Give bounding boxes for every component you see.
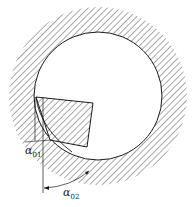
workpiece-hatched-ring — [0, 0, 193, 207]
boring-diagram — [0, 0, 193, 207]
alpha02-label: α02 — [63, 186, 79, 201]
alpha01-label: α01 — [25, 144, 41, 159]
